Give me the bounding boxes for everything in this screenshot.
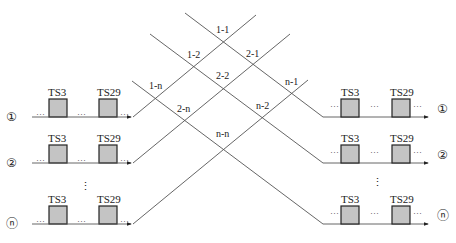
ts29-slot [392,206,410,224]
svg-text:···: ··· [330,101,339,111]
ts3-slot [49,99,67,117]
right-port-2: ··· TS3 ··· TS29 ··· ② [323,132,448,163]
svg-text:TS29: TS29 [97,86,121,98]
svg-text:TS3: TS3 [48,193,67,205]
port-label: ② [437,148,448,162]
line-in-1 [185,13,323,117]
svg-text:···: ··· [330,208,339,218]
svg-text:···: ··· [370,208,379,218]
ts3-slot [49,206,67,224]
svg-text:TS29: TS29 [390,86,414,98]
svg-text:···: ··· [413,208,422,218]
svg-text:TS3: TS3 [48,132,67,144]
svg-text:TS3: TS3 [341,86,360,98]
svg-text:2-2: 2-2 [216,70,229,81]
ts29-slot [392,99,410,117]
right-port-n: ··· TS3 ··· TS29 ··· ⓝ [323,193,449,224]
port-label: ① [437,102,448,116]
svg-text:TS3: TS3 [341,132,360,144]
port-label: ① [6,110,17,124]
svg-text:TS29: TS29 [97,132,121,144]
cross-connect-diagram: ① ··· TS3 ··· TS29 ··· ② ··· TS3 ··· TS2… [0,0,456,243]
svg-text:···: ··· [370,101,379,111]
svg-text:1-n: 1-n [149,80,162,91]
svg-text:n-1: n-1 [285,76,298,87]
ts3-slot [49,145,67,163]
svg-text:n-n: n-n [216,128,229,139]
vertical-ellipsis: ⋮ [372,176,383,188]
svg-text:TS29: TS29 [390,193,414,205]
svg-text:···: ··· [413,101,422,111]
svg-text:···: ··· [36,216,45,226]
svg-text:TS29: TS29 [390,132,414,144]
svg-text:TS29: TS29 [97,193,121,205]
svg-text:n-2: n-2 [256,100,269,111]
svg-text:1-1: 1-1 [216,24,229,35]
line-in-n [132,81,323,224]
left-port-n: ⓝ ··· TS3 ··· TS29 ··· [6,193,131,231]
svg-text:2-n: 2-n [177,103,190,114]
ts29-slot [99,145,117,163]
ts29-slot [392,145,410,163]
line-in-2 [150,34,323,163]
ts29-slot [99,206,117,224]
svg-text:···: ··· [330,147,339,157]
left-port-2: ② ··· TS3 ··· TS29 ··· [6,132,131,170]
svg-text:TS3: TS3 [48,86,67,98]
svg-text:TS3: TS3 [341,193,360,205]
svg-text:···: ··· [77,109,86,119]
vertical-ellipsis: ⋮ [80,180,91,192]
line-out-2 [133,34,290,163]
svg-text:···: ··· [36,155,45,165]
left-port-1: ① ··· TS3 ··· TS29 ··· [6,86,131,124]
port-label: ⓝ [437,209,449,223]
svg-text:···: ··· [120,216,129,226]
ts3-slot [341,99,359,117]
svg-text:2-1: 2-1 [246,48,259,59]
svg-text:···: ··· [370,147,379,157]
svg-text:···: ··· [120,109,129,119]
ts29-slot [99,99,117,117]
svg-text:···: ··· [36,109,45,119]
svg-text:···: ··· [77,216,86,226]
ts3-slot [341,145,359,163]
svg-text:···: ··· [413,147,422,157]
diagram-canvas: ① ··· TS3 ··· TS29 ··· ② ··· TS3 ··· TS2… [0,0,456,243]
right-port-1: ··· TS3 ··· TS29 ··· ① [323,86,448,117]
line-out-1 [133,15,256,117]
port-label: ② [6,156,17,170]
svg-text:···: ··· [120,155,129,165]
svg-text:···: ··· [77,155,86,165]
ts3-slot [341,206,359,224]
svg-text:1-2: 1-2 [187,49,200,60]
port-label: ⓝ [6,217,18,231]
